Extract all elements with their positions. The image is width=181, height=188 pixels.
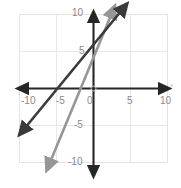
x-tick-label-neg10: -10 (21, 96, 35, 106)
coordinate-graph: -10 -5 0 5 10 10 5 -5 -10 x (0, 0, 181, 188)
y-tick-label-10: 10 (72, 8, 83, 18)
x-axis-label: x (170, 82, 173, 88)
x-tick-label-neg5: -5 (56, 96, 65, 106)
graph-canvas (0, 0, 181, 188)
x-tick-label-0: 0 (87, 96, 93, 106)
x-tick-label-10: 10 (160, 96, 171, 106)
x-tick-label-5: 5 (127, 96, 133, 106)
y-tick-label-neg5: -5 (74, 120, 83, 130)
y-tick-label-neg10: -10 (68, 157, 82, 167)
y-tick-label-5: 5 (79, 46, 85, 56)
